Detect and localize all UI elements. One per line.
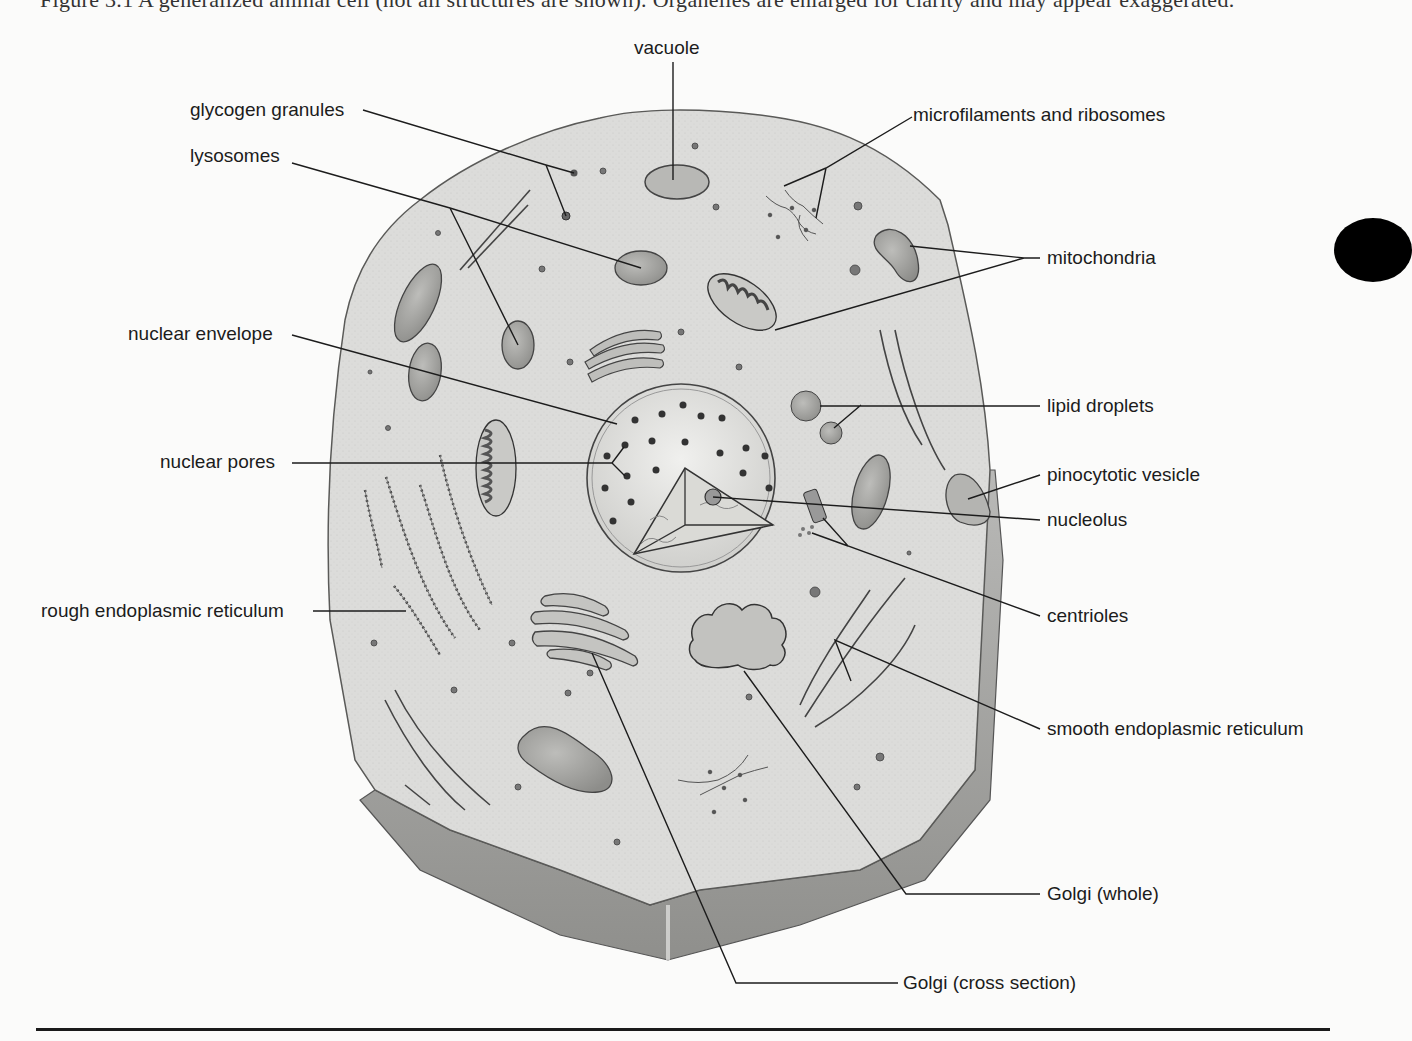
- bottom-rule-divider: [36, 1028, 1330, 1031]
- label-centrioles: centrioles: [1047, 605, 1128, 627]
- mitochondrion-cristae: [476, 420, 516, 516]
- label-microfilaments-ribosomes: microfilaments and ribosomes: [913, 104, 1165, 126]
- label-golgi-whole: Golgi (whole): [1047, 883, 1159, 905]
- nucleus: [587, 384, 775, 572]
- label-golgi-cross-section: Golgi (cross section): [903, 972, 1076, 994]
- label-smooth-er: smooth endoplasmic reticulum: [1047, 718, 1304, 740]
- label-lipid-droplets: lipid droplets: [1047, 395, 1154, 417]
- vacuole-organelle: [645, 165, 709, 199]
- label-lysosomes: lysosomes: [190, 145, 280, 167]
- label-vacuole: vacuole: [634, 37, 700, 59]
- label-nuclear-envelope: nuclear envelope: [128, 323, 273, 345]
- page-edge-tab-marker: [1334, 218, 1412, 282]
- label-nucleolus: nucleolus: [1047, 509, 1127, 531]
- lipid-droplet: [820, 422, 842, 444]
- label-pinocytotic-vesicle: pinocytotic vesicle: [1047, 464, 1200, 486]
- label-nuclear-pores: nuclear pores: [160, 451, 275, 473]
- label-mitochondria: mitochondria: [1047, 247, 1156, 269]
- lipid-droplet: [791, 391, 821, 421]
- label-rough-er: rough endoplasmic reticulum: [41, 600, 284, 622]
- label-glycogen-granules: glycogen granules: [190, 99, 344, 121]
